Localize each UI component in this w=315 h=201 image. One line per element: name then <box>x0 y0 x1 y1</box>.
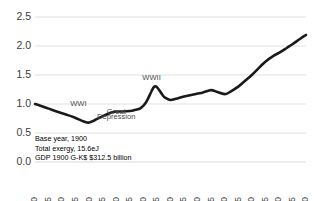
footnote-base-year: Base year, 1900 <box>35 134 132 144</box>
data-series-group <box>35 35 306 123</box>
x-tick-label-1910: 1910 <box>56 197 66 201</box>
x-tick-label-1900: 1900 <box>29 197 39 201</box>
y-tick-label-1.0: 1.0 <box>16 97 31 109</box>
footnote-gdp: GDP 1900 G-K$ $312.5 billion <box>35 153 132 163</box>
x-tick-label-2000: 2000 <box>300 197 310 201</box>
annotation-wwii: WWII <box>142 73 161 82</box>
x-tick-label-1990: 1990 <box>273 197 283 201</box>
x-tick-label-1975: 1975 <box>233 197 243 201</box>
x-axis-tick-labels: 1900190519101915192019251930193519401945… <box>29 197 310 201</box>
x-tick-label-1925: 1925 <box>97 197 107 201</box>
footnote-total-exergy: Total exergy, 15.6eJ <box>35 144 132 154</box>
annotation-wwi: WWI <box>70 99 86 108</box>
y-axis-tick-labels: 0.00.51.01.52.02.5 <box>16 10 31 167</box>
x-tick-label-1985: 1985 <box>260 197 270 201</box>
y-tick-label-1.5: 1.5 <box>16 68 31 80</box>
x-tick-label-1960: 1960 <box>192 197 202 201</box>
x-tick-label-1995: 1995 <box>287 197 297 201</box>
x-tick-label-1965: 1965 <box>206 197 216 201</box>
chart-container: 0.00.51.01.52.02.5 190019051910191519201… <box>0 0 315 201</box>
chart-footnotes: Base year, 1900 Total exergy, 15.6eJ GDP… <box>35 134 132 163</box>
x-tick-label-1930: 1930 <box>111 197 121 201</box>
x-tick-label-1955: 1955 <box>178 197 188 201</box>
line-chart: 0.00.51.01.52.02.5 190019051910191519201… <box>0 0 315 201</box>
y-tick-label-2.0: 2.0 <box>16 39 31 51</box>
annotation-depression: Depression <box>97 112 135 121</box>
x-tick-label-1950: 1950 <box>165 197 175 201</box>
x-tick-label-1905: 1905 <box>43 197 53 201</box>
series-line-0 <box>35 35 306 123</box>
x-tick-label-1970: 1970 <box>219 197 229 201</box>
x-tick-label-1915: 1915 <box>70 197 80 201</box>
chart-annotations-group: WWIGreatDepressionWWII <box>70 73 161 121</box>
y-tick-label-2.5: 2.5 <box>16 10 31 22</box>
x-tick-label-1940: 1940 <box>138 197 148 201</box>
x-tick-label-1980: 1980 <box>246 197 256 201</box>
x-tick-label-1945: 1945 <box>151 197 161 201</box>
y-tick-label-0.0: 0.0 <box>16 155 31 167</box>
y-tick-label-0.5: 0.5 <box>16 126 31 138</box>
x-tick-label-1935: 1935 <box>124 197 134 201</box>
x-tick-label-1920: 1920 <box>84 197 94 201</box>
